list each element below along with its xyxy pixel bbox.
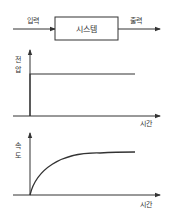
speed-response-curve (30, 152, 135, 195)
speed-xlabel: 시간 (140, 200, 153, 209)
speed-ylabel-char-2: 도 (15, 152, 22, 160)
system-response-diagram: 입력 시스템 출력 전 압 시간 속 도 시간 (0, 0, 172, 220)
block-diagram: 입력 시스템 출력 (13, 16, 160, 40)
input-label: 입력 (27, 17, 39, 25)
voltage-xlabel: 시간 (140, 119, 153, 128)
speed-ylabel-char-1: 속 (15, 142, 22, 150)
output-label: 출력 (130, 16, 142, 25)
system-label: 시스템 (76, 24, 97, 34)
voltage-step-line (30, 74, 135, 116)
voltage-ylabel-char-1: 전 (15, 55, 21, 64)
voltage-ylabel-char-2: 압 (15, 66, 22, 74)
speed-chart: 속 도 시간 (13, 133, 160, 209)
voltage-chart: 전 압 시간 (13, 50, 160, 128)
